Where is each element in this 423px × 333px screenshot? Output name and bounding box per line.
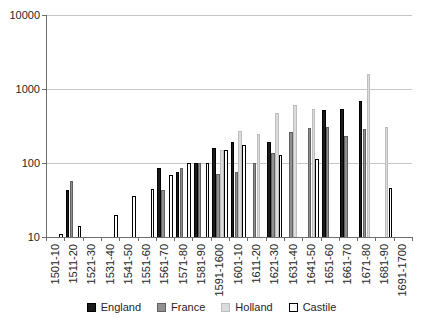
x-tick-mark <box>357 237 358 241</box>
x-tick-label-1581-90: 1581-90 <box>195 244 208 284</box>
legend-swatch-france-icon <box>157 303 166 312</box>
bar-castile-1591-1600 <box>224 150 228 237</box>
x-tick-label-1521-30: 1521-30 <box>85 244 98 284</box>
bar-castile-1681-90 <box>389 188 393 237</box>
legend-item-france: France <box>157 301 205 313</box>
bar-castile-1561-70 <box>169 175 173 238</box>
bar-france-1571-80 <box>180 168 184 237</box>
gridline-10000 <box>46 15 412 16</box>
bar-castile-1571-80 <box>187 163 191 237</box>
bar-castile-1581-90 <box>206 163 210 237</box>
legend-swatch-england-icon <box>87 303 96 312</box>
y-tick-label-100: 100 <box>0 157 40 170</box>
bar-holland-1631-40 <box>293 105 297 237</box>
bar-france-1661-70 <box>344 136 348 238</box>
x-tick-mark <box>302 237 303 241</box>
bar-england-1511-20 <box>66 190 70 237</box>
bar-castile-1501-10 <box>59 234 63 237</box>
x-tick-label-1541-50: 1541-50 <box>122 244 135 284</box>
x-tick-label-1501-10: 1501-10 <box>49 244 62 284</box>
legend-label-france: France <box>171 301 205 313</box>
y-tick-label-10: 10 <box>0 231 40 244</box>
x-tick-label-1511-20: 1511-20 <box>67 244 80 284</box>
x-tick-mark <box>247 237 248 241</box>
chart-figure: 10100100010000 1501-101511-201521-301531… <box>0 0 423 333</box>
x-tick-label-1621-30: 1621-30 <box>268 244 281 284</box>
legend-item-castile: Castile <box>289 301 337 313</box>
y-tick-label-1000: 1000 <box>0 83 40 96</box>
x-tick-mark <box>64 237 65 241</box>
x-tick-mark <box>339 237 340 241</box>
x-tick-label-1531-40: 1531-40 <box>104 244 117 284</box>
x-tick-label-1671-80: 1671-80 <box>360 244 373 284</box>
x-tick-label-1651-60: 1651-60 <box>323 244 336 284</box>
legend-label-england: England <box>101 301 141 313</box>
bar-castile-1541-50 <box>132 196 136 237</box>
x-tick-label-1661-70: 1661-70 <box>341 244 354 284</box>
legend-label-holland: Holland <box>235 301 272 313</box>
x-tick-label-1551-60: 1551-60 <box>140 244 153 284</box>
x-tick-mark <box>266 237 267 241</box>
bar-castile-1511-20 <box>78 226 82 237</box>
x-tick-mark <box>83 237 84 241</box>
gridline-100 <box>46 163 412 164</box>
x-tick-mark <box>46 237 47 241</box>
x-tick-label-1571-80: 1571-80 <box>177 244 190 284</box>
bar-castile-1601-10 <box>242 145 246 237</box>
legend: EnglandFranceHollandCastile <box>0 301 423 313</box>
x-tick-label-1601-10: 1601-10 <box>232 244 245 284</box>
x-tick-mark <box>284 237 285 241</box>
x-tick-mark <box>375 237 376 241</box>
legend-label-castile: Castile <box>303 301 337 313</box>
bar-castile-1621-30 <box>279 155 283 237</box>
x-tick-mark <box>101 237 102 241</box>
bar-france-1651-60 <box>326 127 330 237</box>
x-tick-mark <box>192 237 193 241</box>
bar-holland-1611-20 <box>257 134 261 237</box>
x-tick-mark <box>412 237 413 241</box>
legend-swatch-holland-icon <box>221 303 230 312</box>
x-tick-label-1641-50: 1641-50 <box>305 244 318 284</box>
legend-item-england: England <box>87 301 141 313</box>
x-tick-mark <box>394 237 395 241</box>
x-tick-label-1681-90: 1681-90 <box>378 244 391 284</box>
legend-item-holland: Holland <box>221 301 272 313</box>
gridline-1000 <box>46 89 412 90</box>
bar-france-1631-40 <box>289 132 293 237</box>
bar-france-1511-20 <box>70 181 74 238</box>
x-tick-label-1591-1600: 1591-1600 <box>213 244 226 297</box>
x-tick-label-1611-20: 1611-20 <box>250 244 263 284</box>
x-tick-mark <box>229 237 230 241</box>
bar-castile-1641-50 <box>315 159 319 237</box>
legend-swatch-castile-icon <box>289 303 298 312</box>
bar-castile-1531-40 <box>114 215 118 237</box>
x-tick-label-1631-40: 1631-40 <box>287 244 300 284</box>
bar-holland-1671-80 <box>367 74 371 237</box>
bar-france-1641-50 <box>308 128 312 237</box>
x-tick-mark <box>321 237 322 241</box>
x-tick-mark <box>156 237 157 241</box>
x-tick-mark <box>138 237 139 241</box>
x-tick-mark <box>211 237 212 241</box>
x-tick-label-1691-1700: 1691-1700 <box>396 244 409 297</box>
bar-castile-1551-60 <box>151 189 155 237</box>
x-tick-mark <box>119 237 120 241</box>
y-tick-label-10000: 10000 <box>0 9 40 22</box>
x-tick-mark <box>174 237 175 241</box>
bar-france-1561-70 <box>161 190 165 237</box>
y-axis-line <box>46 15 47 238</box>
bar-france-1581-90 <box>198 163 202 237</box>
x-tick-label-1561-70: 1561-70 <box>158 244 171 284</box>
